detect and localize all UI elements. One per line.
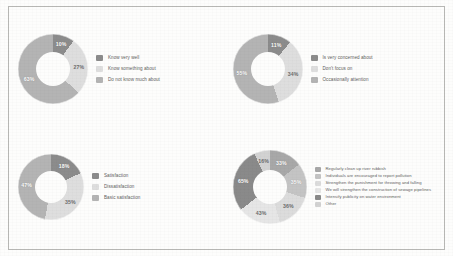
chart-block-satisfaction: 18%35%47% SatisfactionDissatisfactionBas… <box>12 128 227 246</box>
slice-value-label: 47% <box>21 182 32 188</box>
legend-item-label: Individuals are encouraged to report pol… <box>326 174 412 179</box>
legend-item-label: Regularly clean up river rubbish <box>326 167 387 172</box>
legend-swatch-icon <box>92 195 99 201</box>
legend-item-label: Don't focus on <box>323 66 353 71</box>
donut-wrap-satisfaction: 18%35%47% <box>18 154 84 220</box>
legend-item[interactable]: Satisfaction <box>92 173 227 179</box>
legend-awareness: Know very wellKnow something aboutDo not… <box>88 55 227 83</box>
legend-item[interactable]: Basic satisfaction <box>92 195 227 201</box>
legend-item-label: Is very concerned about <box>323 55 373 60</box>
legend-item-label: Dissatisfaction <box>104 184 134 189</box>
legend-item[interactable]: Know something about <box>96 66 227 72</box>
legend-item[interactable]: Regularly clean up river rubbish <box>315 167 442 172</box>
slice-value-label: 63% <box>24 76 35 82</box>
slice-value-label: 35% <box>291 179 302 185</box>
concern-donut[interactable] <box>233 34 303 104</box>
legend-item-label: Know something about <box>108 66 156 71</box>
slice-value-label: 65% <box>238 178 249 184</box>
legend-item-label: Intensify publicity on water environment <box>326 195 401 200</box>
legend-measures: Regularly clean up river rubbishIndividu… <box>307 167 442 207</box>
legend-swatch-icon <box>96 77 103 83</box>
donut-wrap-awareness: 10%27%63% <box>18 34 88 104</box>
measures-donut[interactable] <box>233 150 307 224</box>
legend-item-label: Know very well <box>108 55 139 60</box>
slice-value-label: 10% <box>56 41 67 47</box>
donut-hole <box>253 170 287 204</box>
legend-item-label: Do not know much about <box>108 77 160 82</box>
legend-swatch-icon <box>315 195 321 200</box>
legend-swatch-icon <box>311 66 318 72</box>
slice-value-label: 55% <box>236 70 247 76</box>
legend-swatch-icon <box>315 188 321 193</box>
legend-item[interactable]: Strengthen the punishment for throwing a… <box>315 181 442 186</box>
donut-hole <box>35 171 67 203</box>
legend-satisfaction: SatisfactionDissatisfactionBasic satisfa… <box>84 173 227 201</box>
legend-item-label: Basic satisfaction <box>104 195 140 200</box>
slice-value-label: 27% <box>74 64 85 70</box>
legend-swatch-icon <box>315 181 321 186</box>
legend-item[interactable]: Other <box>315 202 442 207</box>
legend-item-label: We will strengthen the construction of s… <box>326 188 432 193</box>
legend-concern: Is very concerned aboutDon't focus onOcc… <box>303 55 442 83</box>
slice-value-label: 11% <box>271 42 281 48</box>
legend-swatch-icon <box>311 55 318 61</box>
legend-swatch-icon <box>92 173 99 179</box>
legend-swatch-icon <box>92 184 99 190</box>
legend-swatch-icon <box>315 167 321 172</box>
slice-value-label: 43% <box>256 210 267 216</box>
legend-swatch-icon <box>315 202 321 207</box>
legend-swatch-icon <box>311 77 318 83</box>
slice-value-label: 35% <box>65 199 76 205</box>
legend-item-label: Satisfaction <box>104 173 128 178</box>
legend-swatch-icon <box>315 174 321 179</box>
page-background: 10%27%63% Know very wellKnow something a… <box>0 0 453 256</box>
legend-swatch-icon <box>96 66 103 72</box>
legend-item[interactable]: Intensify publicity on water environment <box>315 195 442 200</box>
chart-block-concern: 11%34%55% Is very concerned aboutDon't f… <box>227 10 442 128</box>
donut-wrap-measures: 33%35%36%43%65%16% <box>233 150 307 224</box>
chart-block-awareness: 10%27%63% Know very wellKnow something a… <box>12 10 227 128</box>
chart-grid: 10%27%63% Know very wellKnow something a… <box>12 10 441 246</box>
legend-item[interactable]: Occasionally attention <box>311 77 442 83</box>
donut-hole <box>36 52 70 86</box>
legend-item[interactable]: Individuals are encouraged to report pol… <box>315 174 442 179</box>
legend-item-label: Strengthen the punishment for throwing a… <box>326 181 422 186</box>
legend-item-label: Occasionally attention <box>323 77 369 82</box>
legend-item[interactable]: Is very concerned about <box>311 55 442 61</box>
chart-block-measures: 33%35%36%43%65%16% Regularly clean up ri… <box>227 128 442 246</box>
donut-hole <box>251 52 285 86</box>
slice-value-label: 33% <box>276 160 287 166</box>
donut-wrap-concern: 11%34%55% <box>233 34 303 104</box>
slice-value-label: 36% <box>283 203 294 209</box>
slice-value-label: 34% <box>288 71 299 77</box>
slice-value-label: 16% <box>258 158 269 164</box>
legend-item-label: Other <box>326 202 337 207</box>
legend-item[interactable]: Do not know much about <box>96 77 227 83</box>
legend-item[interactable]: Dissatisfaction <box>92 184 227 190</box>
legend-item[interactable]: We will strengthen the construction of s… <box>315 188 442 193</box>
legend-swatch-icon <box>96 55 103 61</box>
legend-item[interactable]: Know very well <box>96 55 227 61</box>
legend-item[interactable]: Don't focus on <box>311 66 442 72</box>
slice-value-label: 18% <box>59 163 70 169</box>
